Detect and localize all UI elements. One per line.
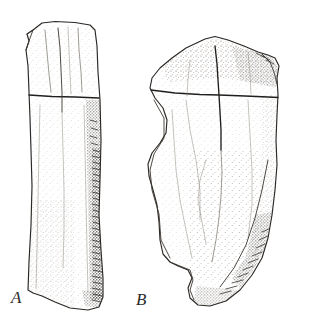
- figure-a-artifact: [24, 20, 106, 315]
- illustration-plate: A B: [0, 0, 315, 329]
- artifact-drawing-canvas: [0, 0, 315, 329]
- figure-b-label: B: [136, 291, 146, 308]
- figure-b-artifact: [146, 34, 282, 310]
- figure-a-label: A: [11, 289, 21, 306]
